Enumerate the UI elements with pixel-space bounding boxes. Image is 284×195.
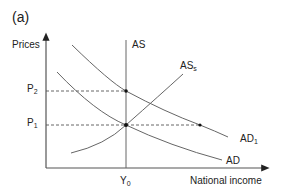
ad1-curve: [72, 45, 228, 137]
y0-sub: 0: [127, 180, 131, 187]
p1-label: P1: [27, 118, 38, 129]
ad1-point-p1: [198, 123, 201, 126]
y0-base: Y: [120, 175, 127, 186]
diagram-canvas: [0, 0, 284, 195]
ass-sub: s: [193, 65, 197, 72]
p1-base: P: [27, 117, 34, 128]
ad-base: AD: [226, 155, 240, 166]
p2-sub: 2: [34, 88, 38, 95]
equilibrium-point-p2: [124, 89, 128, 93]
ass-base: AS: [180, 60, 193, 71]
ass-label: ASs: [180, 61, 197, 72]
equilibrium-point-p1: [124, 123, 128, 127]
as-base: AS: [132, 39, 145, 50]
ad1-sub: 1: [254, 138, 258, 145]
ad-curve: [57, 72, 222, 160]
as-label: AS: [132, 40, 145, 50]
p2-label: P2: [27, 84, 38, 95]
ad1-label: AD1: [240, 134, 258, 145]
p1-sub: 1: [34, 122, 38, 129]
x-axis-label: National income: [190, 176, 262, 186]
y0-label: Y0: [120, 176, 131, 187]
p2-base: P: [27, 83, 34, 94]
ad1-base: AD: [240, 133, 254, 144]
ad-label: AD: [226, 156, 240, 166]
y-axis-label: Prices: [12, 40, 40, 50]
ass-curve: [71, 74, 183, 153]
panel-label: (a): [12, 10, 29, 24]
